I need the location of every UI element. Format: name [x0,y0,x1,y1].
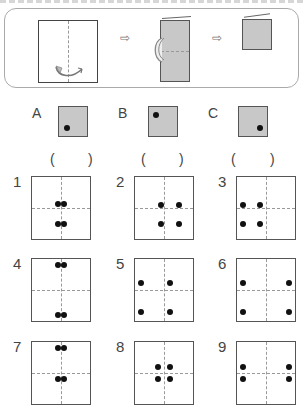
punch-hole [61,221,67,227]
choice-number: 6 [218,256,226,271]
fold-line-horizontal [32,208,90,209]
punch-hole [61,376,67,382]
punch-hole [138,280,144,286]
choice-number: 4 [13,256,21,271]
punch-hole [61,345,67,351]
option-label-a: A [32,106,41,120]
choice-number: 3 [218,174,226,189]
punch-hole [158,202,164,208]
punch-hole [138,309,144,315]
punch-hole [240,280,246,286]
punch-hole [257,202,263,208]
punch-hole [158,221,164,227]
choice-number: 7 [13,339,21,354]
answer-close-paren: ) [179,152,184,166]
answer-open-paren: ( [231,152,236,166]
punch-hole [240,376,246,382]
fold-line-horizontal [135,208,193,209]
choice-box-7[interactable] [31,341,91,405]
choice-box-4[interactable] [31,258,91,322]
fold-line-horizontal [135,373,193,374]
choice-box-5[interactable] [134,258,194,322]
punch-hole [257,221,263,227]
fold-line-horizontal [161,51,189,52]
answer-slot-c[interactable] [237,150,267,168]
punch-hole [155,376,161,382]
fold-line-horizontal [32,373,90,374]
punch-hole [240,364,246,370]
fold-arrow-icon [54,63,88,81]
option-c-square [238,106,268,137]
punch-hole [176,221,182,227]
cropped-header-text [0,0,305,3]
punch-hole [55,262,61,268]
punch-hole [286,364,292,370]
option-label-b: B [118,106,127,120]
answer-slot-b[interactable] [147,150,177,168]
choice-box-8[interactable] [134,341,194,405]
choice-box-1[interactable] [31,176,91,240]
punch-hole [167,309,173,315]
punch-hole [257,125,263,131]
punch-hole [155,364,161,370]
choice-number: 2 [116,174,124,189]
step-arrow-icon: ⇨ [212,32,222,44]
fold-line-horizontal [237,373,295,374]
punch-hole [176,202,182,208]
answer-close-paren: ) [270,152,275,166]
punch-hole [286,309,292,315]
punch-hole [167,376,173,382]
answer-slot-a[interactable] [56,150,86,168]
step-arrow-icon: ⇨ [120,32,130,44]
option-a-square [58,106,88,137]
punch-hole [167,280,173,286]
option-label-c: C [208,106,218,120]
choice-number: 5 [116,256,124,271]
punch-hole [55,201,61,207]
answer-close-paren: ) [88,152,93,166]
punch-hole [61,201,67,207]
fold-line-horizontal [32,290,90,291]
answer-open-paren: ( [50,152,55,166]
punch-hole [167,364,173,370]
punch-hole [286,280,292,286]
choice-box-3[interactable] [236,176,296,240]
unfolded-sheet [38,20,98,83]
fold-line-horizontal [135,290,193,291]
option-b-square [148,106,178,137]
punch-hole [55,312,61,318]
punch-hole [55,376,61,382]
choice-box-9[interactable] [236,341,296,405]
choice-box-6[interactable] [236,258,296,322]
fold-up-arrow-icon [151,36,165,64]
quarter-folded-sheet [242,19,272,50]
choice-number: 8 [116,339,124,354]
punch-hole [61,262,67,268]
punch-hole [61,312,67,318]
punch-hole [286,376,292,382]
choice-number: 9 [218,339,226,354]
punch-hole [240,221,246,227]
choice-number: 1 [13,174,21,189]
answer-open-paren: ( [141,152,146,166]
punch-hole [153,112,159,118]
punch-hole [240,309,246,315]
punch-hole [55,221,61,227]
punch-hole [55,345,61,351]
choice-box-2[interactable] [134,176,194,240]
punch-hole [64,125,70,131]
fold-line-horizontal [237,290,295,291]
fold-line-horizontal [237,208,295,209]
punch-hole [240,202,246,208]
